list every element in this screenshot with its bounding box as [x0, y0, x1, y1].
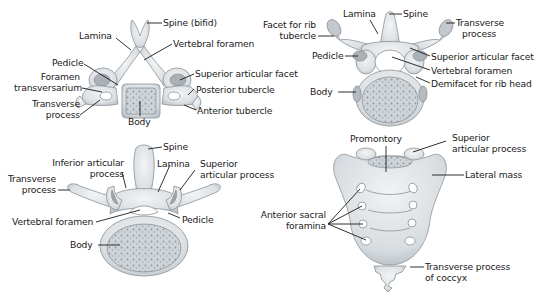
label-sacrum-superior-articular-2: articular process	[452, 144, 526, 154]
label-lumbar-inferior-articular-1: Inferior articular	[40, 158, 124, 168]
label-thoracic-facet-rib-tubercle-2: tubercle	[236, 31, 316, 41]
label-thoracic-spine: Spine	[403, 9, 428, 19]
label-sacrum-anterior-sacral-1: Anterior sacral	[240, 210, 326, 220]
label-cervical-lamina: Lamina	[79, 31, 112, 41]
label-lumbar-spine: Spine	[163, 142, 188, 152]
label-sacrum-superior-articular-1: Superior	[452, 133, 490, 143]
label-lumbar-superior-articular-1: Superior	[200, 159, 238, 169]
label-lumbar-body: Body	[70, 240, 93, 250]
label-cervical-superior-articular-facet: Superior articular facet	[195, 69, 298, 79]
label-lumbar-vertebral-foramen: Vertebral foramen	[12, 217, 93, 227]
label-cervical-transverse-process-2: process	[14, 110, 80, 120]
label-lumbar-lamina: Lamina	[157, 159, 190, 169]
label-cervical-anterior-tubercle: Anterior tubercle	[197, 106, 272, 116]
vertebrae-diagram: Spine (bifid) Lamina Vertebral foramen P…	[0, 0, 536, 297]
label-thoracic-lamina: Lamina	[343, 9, 376, 19]
label-thoracic-transverse-process-1: Transverse	[456, 18, 504, 28]
label-lumbar-transverse-process-2: process	[0, 185, 56, 195]
label-cervical-foramen-transversarium-2: transversarium	[0, 83, 82, 93]
label-thoracic-pedicle: Pedicle	[312, 51, 343, 61]
label-thoracic-body: Body	[310, 87, 333, 97]
label-cervical-spine: Spine (bifid)	[163, 18, 217, 28]
label-sacrum-coccyx-tp-2: of coccyx	[425, 273, 467, 283]
label-thoracic-demifacet: Demifacet for rib head	[431, 79, 532, 89]
label-sacrum-lateral-mass: Lateral mass	[465, 170, 522, 180]
label-lumbar-pedicle: Pedicle	[182, 215, 213, 225]
label-cervical-posterior-tubercle: Posterior tubercle	[196, 85, 275, 95]
label-sacrum-coccyx-tp-1: Transverse process	[425, 262, 510, 272]
label-lumbar-superior-articular-2: articular process	[200, 170, 274, 180]
label-sacrum-promontory: Promontory	[350, 134, 402, 144]
label-thoracic-superior-articular-facet: Superior articular facet	[431, 52, 534, 62]
label-cervical-transverse-process-1: Transverse	[14, 99, 80, 109]
label-thoracic-vertebral-foramen: Vertebral foramen	[431, 66, 512, 76]
label-cervical-foramen-transversarium-1: Foramen	[14, 72, 80, 82]
label-lumbar-transverse-process-1: Transverse	[0, 174, 56, 184]
label-cervical-body: Body	[128, 117, 151, 127]
label-cervical-pedicle: Pedicle	[52, 58, 83, 68]
label-sacrum-anterior-sacral-2: foramina	[240, 221, 326, 231]
label-thoracic-facet-rib-tubercle-1: Facet for rib	[236, 20, 316, 30]
label-thoracic-transverse-process-2: process	[462, 29, 496, 39]
